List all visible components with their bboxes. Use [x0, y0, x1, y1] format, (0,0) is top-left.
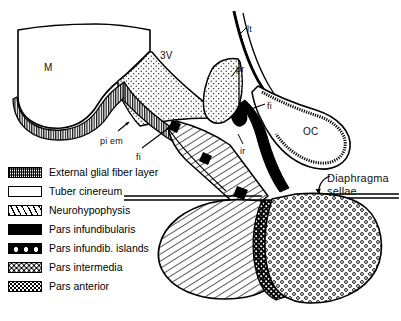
callout-diaphragma-sellae: Diaphragmasellae	[327, 172, 389, 198]
callout-line-1: Diaphragma	[327, 172, 389, 185]
callout-line-2: sellae	[327, 185, 389, 198]
legend-swatch-pars-anterior	[8, 281, 42, 292]
label-third_ventricle: 3V	[160, 50, 173, 61]
legend: External glial fiber layerTuber cinereum…	[8, 163, 208, 296]
label-mammillary_body: M	[44, 62, 53, 73]
legend-swatch-external-glial-fiber-layer	[8, 167, 42, 178]
legend-label-pars-intermedia: Pars intermedia	[49, 262, 123, 273]
label-pia_ependyma: pi em	[100, 136, 123, 146]
legend-label-external-glial-fiber-layer: External glial fiber layer	[49, 167, 158, 178]
label-optic_chiasm: OC	[303, 126, 318, 137]
label-preoptic_recess: pr	[236, 64, 244, 74]
legend-label-pars-anterior: Pars anterior	[49, 281, 109, 292]
legend-label-neurohypophysis: Neurohypophysis	[49, 205, 130, 216]
legend-item-neurohypophysis: Neurohypophysis	[8, 201, 208, 220]
legend-item-pars-anterior: Pars anterior	[8, 277, 208, 296]
label-infundibular_recess: ir	[240, 146, 245, 156]
label-lamina_terminalis: lt	[247, 24, 252, 34]
pituitary-pars-anterior-lobe	[265, 193, 382, 303]
label-fibers_upper: fi	[267, 101, 272, 111]
legend-swatch-pars-intermedia	[8, 262, 42, 273]
legend-item-pars-infundibularis: Pars infundibularis	[8, 220, 208, 239]
label-fibers_lower: fi	[136, 152, 141, 162]
legend-label-tuber-cinereum: Tuber cinereum	[49, 186, 122, 197]
legend-item-tuber-cinereum: Tuber cinereum	[8, 182, 208, 201]
legend-label-pars-infundibularis: Pars infundibularis	[49, 224, 135, 235]
legend-label-pars-infundib-islands: Pars infundib. islands	[49, 243, 149, 254]
legend-swatch-pars-infundibularis	[8, 224, 42, 235]
legend-item-external-glial-fiber-layer: External glial fiber layer	[8, 163, 208, 182]
legend-swatch-pars-infundib-islands	[8, 243, 42, 254]
legend-swatch-neurohypophysis	[8, 205, 42, 216]
legend-item-pars-intermedia: Pars intermedia	[8, 258, 208, 277]
legend-item-pars-infundib-islands: Pars infundib. islands	[8, 239, 208, 258]
legend-swatch-tuber-cinereum	[8, 186, 42, 197]
